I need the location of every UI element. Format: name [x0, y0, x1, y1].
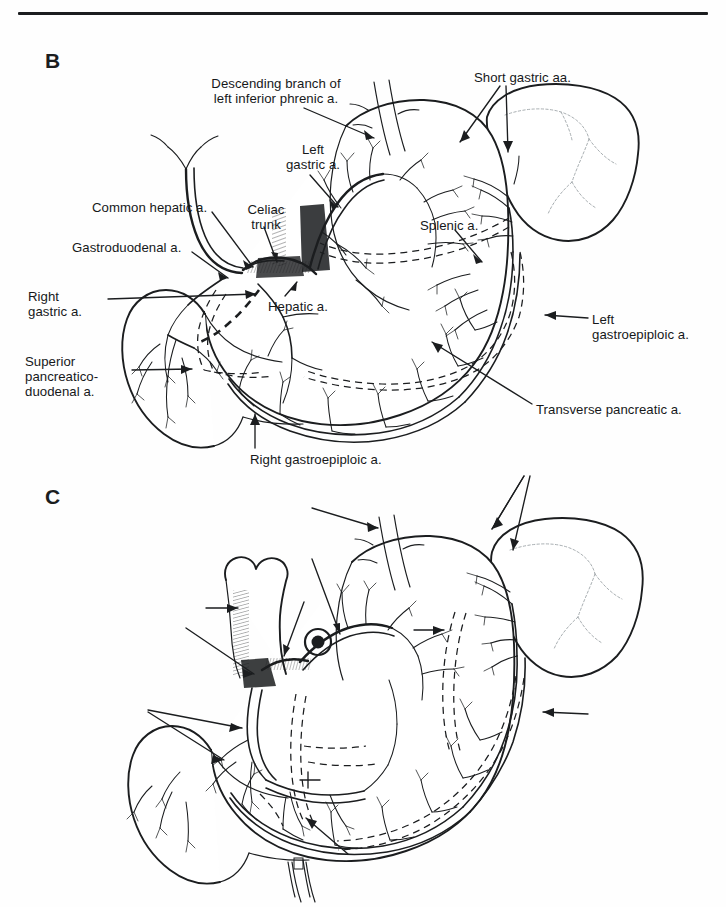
label-transverse-pancreatic-a: Transverse pancreatic a.: [536, 402, 726, 417]
label-superior-pancreaticoduodenal-a: Superior pancreatico- duodenal a.: [25, 354, 135, 400]
stomach-outline-c: [128, 536, 514, 897]
label-gastroduodenal-a: Gastroduodenal a.: [72, 240, 218, 255]
smv-stub: [292, 858, 315, 902]
label-left-gastroepiploic-a: Left gastroepiploic a.: [592, 312, 722, 342]
label-short-gastric-aa: Short gastric aa.: [474, 70, 614, 85]
label-descending-branch-left-inferior-phrenic-a: Descending branch of left inferior phren…: [186, 76, 366, 106]
label-common-hepatic-a: Common hepatic a.: [92, 200, 242, 215]
label-left-gastric-a: Left gastric a.: [274, 142, 352, 172]
label-celiac-trunk: Celiac trunk: [236, 202, 296, 232]
top-rule-divider: [18, 12, 708, 15]
label-hepatic-a: Hepatic a.: [268, 299, 356, 314]
figure-page: B: [0, 0, 726, 907]
label-splenic-a: Splenic a.: [420, 218, 506, 233]
panel-c-artwork: [0, 462, 726, 907]
label-right-gastric-a: Right gastric a.: [28, 289, 108, 319]
spleen-outline-b: [487, 84, 639, 241]
panel-c-venous: C: [0, 462, 726, 907]
panel-b-arterial: B: [0, 22, 726, 472]
